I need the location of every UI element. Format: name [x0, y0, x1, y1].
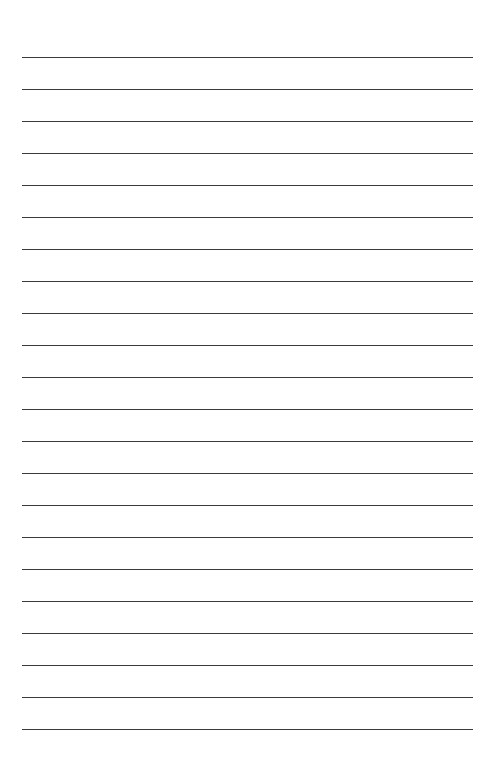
rule-line-7 [22, 249, 473, 250]
rule-line-3 [22, 121, 473, 122]
writing-slot[interactable] [22, 187, 473, 217]
rule-line-9 [22, 313, 473, 314]
writing-slot[interactable] [22, 411, 473, 441]
writing-slot[interactable] [22, 507, 473, 537]
writing-slot[interactable] [22, 667, 473, 697]
writing-slot[interactable] [22, 59, 473, 89]
writing-slot[interactable] [22, 251, 473, 281]
ruled-writing-area[interactable] [0, 0, 493, 769]
rule-line-4 [22, 153, 473, 154]
writing-slot[interactable] [22, 475, 473, 505]
rule-line-5 [22, 185, 473, 186]
writing-slot[interactable] [22, 603, 473, 633]
rule-line-8 [22, 281, 473, 282]
rule-line-15 [22, 505, 473, 506]
writing-slot[interactable] [22, 283, 473, 313]
rule-line-21 [22, 697, 473, 698]
lined-paper-page [0, 0, 493, 769]
writing-slot[interactable] [22, 699, 473, 729]
writing-slot[interactable] [22, 91, 473, 121]
rule-line-10 [22, 345, 473, 346]
rule-line-18 [22, 601, 473, 602]
rule-line-17 [22, 569, 473, 570]
rule-line-22 [22, 729, 473, 730]
rule-line-11 [22, 377, 473, 378]
writing-slot[interactable] [22, 539, 473, 569]
writing-slot[interactable] [22, 155, 473, 185]
rule-line-2 [22, 89, 473, 90]
writing-slot[interactable] [22, 27, 473, 57]
rule-line-16 [22, 537, 473, 538]
writing-slot[interactable] [22, 315, 473, 345]
rule-line-1 [22, 57, 473, 58]
writing-slot[interactable] [22, 635, 473, 665]
rule-line-19 [22, 633, 473, 634]
rule-line-20 [22, 665, 473, 666]
writing-slot[interactable] [22, 379, 473, 409]
writing-slot[interactable] [22, 443, 473, 473]
writing-slot[interactable] [22, 219, 473, 249]
writing-slot[interactable] [22, 571, 473, 601]
writing-slot[interactable] [22, 347, 473, 377]
writing-slot[interactable] [22, 123, 473, 153]
rule-line-6 [22, 217, 473, 218]
rule-line-14 [22, 473, 473, 474]
rule-line-12 [22, 409, 473, 410]
rule-line-13 [22, 441, 473, 442]
